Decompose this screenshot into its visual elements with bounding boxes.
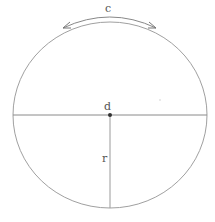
diameter-label: d (104, 101, 111, 112)
radius-label: r (102, 153, 107, 164)
circumference-label: c (105, 3, 111, 14)
stray-dot (159, 99, 161, 101)
center-point (108, 113, 112, 117)
